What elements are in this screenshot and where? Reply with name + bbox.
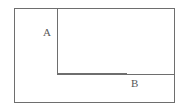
figure-canvas: A B bbox=[0, 0, 188, 112]
region-label-b: B bbox=[131, 78, 138, 89]
region-label-a: A bbox=[43, 27, 51, 38]
figure-line-art bbox=[0, 0, 188, 112]
outer-rectangle bbox=[15, 9, 175, 103]
